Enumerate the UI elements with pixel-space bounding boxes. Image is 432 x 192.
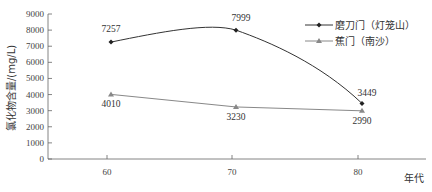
y-tick-label: 3000 (26, 106, 45, 116)
triangle-marker-icon (108, 91, 114, 96)
y-tick-label: 4000 (26, 90, 45, 100)
x-axis-title: 年代 (404, 172, 424, 184)
line-chart: 0100020003000400050006000700080009000 60… (0, 0, 432, 192)
y-tick-label: 8000 (26, 25, 45, 35)
legend-label: 磨刀门（灯笼山） (335, 19, 415, 31)
legend-label: 蕉门（南沙） (335, 35, 395, 47)
data-label: 7999 (232, 13, 251, 23)
data-label: 2990 (353, 116, 372, 126)
data-label: 3449 (358, 88, 377, 98)
y-tick-label: 9000 (26, 9, 45, 19)
series-1-line (111, 27, 362, 103)
x-axis-ticks: 607080 (103, 155, 364, 177)
data-label: 7257 (102, 24, 121, 34)
y-tick-label: 7000 (26, 41, 45, 51)
data-label: 3230 (227, 112, 246, 122)
y-tick-label: 2000 (26, 122, 45, 132)
y-tick-label: 1000 (26, 138, 45, 148)
diamond-marker-icon (317, 23, 322, 28)
x-tick-label: 70 (228, 167, 238, 177)
y-tick-label: 0 (40, 154, 45, 164)
x-tick-label: 80 (354, 167, 364, 177)
diamond-marker-icon (234, 28, 239, 33)
y-tick-label: 5000 (26, 73, 45, 83)
data-label: 4010 (102, 99, 121, 109)
legend-item-series-2: 蕉门（南沙） (305, 35, 395, 47)
diamond-marker-icon (109, 40, 114, 45)
y-tick-label: 6000 (26, 57, 45, 67)
legend: 磨刀门（灯笼山） 蕉门（南沙） (305, 19, 415, 47)
x-tick-label: 60 (103, 167, 113, 177)
y-axis-title: 氯化物含量/(mg/L) (5, 45, 17, 131)
legend-item-series-1: 磨刀门（灯笼山） (305, 19, 415, 31)
